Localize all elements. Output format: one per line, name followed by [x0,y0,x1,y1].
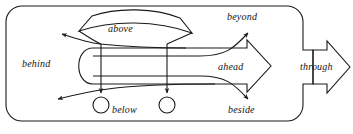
beyond-path [93,33,248,56]
label-above: above [108,24,133,34]
above-banner-shape [79,10,192,33]
diagram-canvas: above beyond behind ahead through below … [0,0,353,134]
label-behind: behind [22,59,50,69]
label-beside: beside [228,105,255,115]
label-beyond: beyond [227,12,257,22]
label-below: below [112,105,137,115]
label-ahead: ahead [218,62,243,72]
landmark-circle-left [93,97,109,113]
above-feeder-right [167,33,192,44]
behind-lower-path [58,84,215,99]
label-through: through [300,62,333,72]
landmark-circle-right [159,97,175,113]
